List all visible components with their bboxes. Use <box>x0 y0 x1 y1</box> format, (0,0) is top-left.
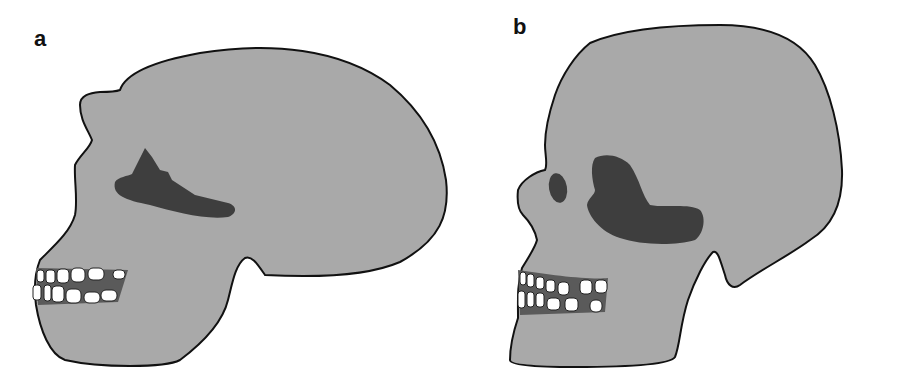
skull-a-outline <box>35 48 447 366</box>
skull-b <box>510 25 842 367</box>
skull-a-teeth <box>33 268 128 305</box>
skull-a <box>33 48 447 366</box>
skull-diagram <box>0 0 911 388</box>
